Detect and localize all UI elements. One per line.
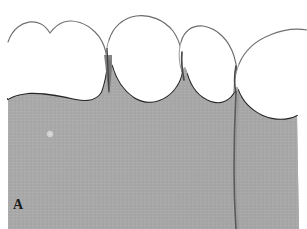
tooth-crown-1 (8, 21, 107, 100)
intraoral-photograph-image (0, 0, 307, 229)
tooth-1-enamel (8, 21, 107, 100)
marker-dot-icon (46, 130, 54, 138)
panel-label: A (13, 198, 23, 212)
clinical-figure-panel: A (0, 0, 307, 229)
